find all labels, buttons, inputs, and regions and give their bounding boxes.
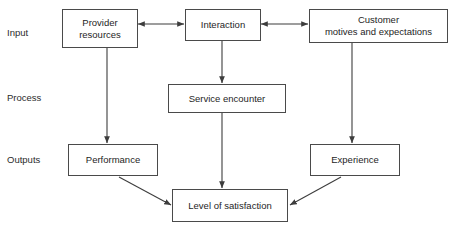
- node-experience-label: Experience: [331, 154, 379, 166]
- node-provider-resources[interactable]: Provider resources: [62, 9, 138, 48]
- row-label-input: Input: [7, 28, 28, 38]
- node-performance-label: Performance: [86, 154, 140, 166]
- node-performance[interactable]: Performance: [68, 144, 158, 176]
- node-interaction[interactable]: Interaction: [185, 9, 261, 41]
- node-interaction-label: Interaction: [201, 19, 245, 31]
- node-level-of-satisfaction[interactable]: Level of satisfaction: [172, 189, 288, 222]
- row-label-process: Process: [7, 93, 41, 103]
- node-service-encounter-label: Service encounter: [189, 93, 266, 105]
- node-experience[interactable]: Experience: [310, 144, 400, 176]
- edge-experience-satisfaction: [290, 177, 341, 205]
- node-provider-resources-label: Provider resources: [79, 17, 121, 40]
- diagram-canvas: Input Process Outputs Provider resources: [0, 0, 454, 234]
- node-customer-motives[interactable]: Customer motives and expectations: [309, 9, 448, 43]
- node-service-encounter[interactable]: Service encounter: [168, 84, 286, 113]
- row-label-outputs: Outputs: [7, 155, 40, 165]
- edge-performance-satisfaction: [119, 177, 171, 205]
- node-customer-motives-label: Customer motives and expectations: [325, 14, 432, 37]
- node-level-of-satisfaction-label: Level of satisfaction: [188, 200, 271, 212]
